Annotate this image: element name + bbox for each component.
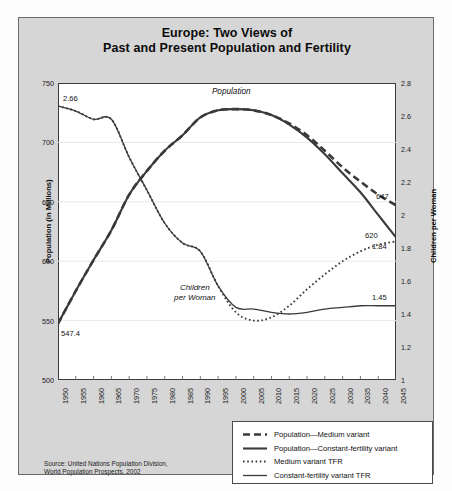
legend-population-constant[interactable]: Population—Constant-fertility variant — [242, 442, 397, 455]
legend-label: Population—Constant-fertility variant — [274, 444, 397, 453]
annotation-children-per-woman: Children per Woman — [174, 283, 215, 302]
y-axis-left-tick: 500 — [28, 376, 54, 385]
y-axis-left-tick: 600 — [28, 257, 54, 266]
chart-page: Europe: Two Views of Past and Present Po… — [0, 0, 452, 491]
y-axis-right-tick: 1.6 — [401, 277, 427, 286]
source-line1: Source: United Nations Population Divisi… — [44, 460, 224, 468]
chart-title-line2: Past and Present Population and Fertilit… — [19, 41, 435, 56]
annotation-tfr-start: 2.66 — [63, 94, 78, 103]
source-line2: World Population Prospects, 2002 — [44, 468, 224, 476]
y-axis-right-tick: 2.4 — [401, 145, 427, 154]
series-line — [58, 106, 396, 321]
y-axis-right-tick: 2.8 — [401, 79, 427, 88]
y-axis-right-tick: 2.2 — [401, 178, 427, 187]
annotation-population-start: 547.4 — [61, 329, 80, 338]
legend-label: Population—Medium variant — [274, 430, 369, 439]
chart-card: Europe: Two Views of Past and Present Po… — [18, 17, 434, 475]
y-axis-right-tick: 1.8 — [401, 244, 427, 253]
legend-swatch-dotted — [242, 456, 268, 467]
y-axis-right-tick: 1.2 — [401, 343, 427, 352]
plot-area: Population Children per Woman 2.66 547.4… — [58, 83, 396, 380]
legend-swatch-solid-thin — [242, 470, 268, 481]
y-axis-left-tick: 700 — [28, 138, 54, 147]
legend-tfr-constant[interactable]: Constant-fertility variant TFR — [242, 469, 371, 482]
series-line — [58, 109, 396, 324]
annotation-tfr-medium-end: 1.84 — [372, 242, 387, 251]
y-axis-right-tick: 1 — [401, 376, 427, 385]
chart-canvas — [58, 83, 396, 380]
annotation-population-constant-end: 620 — [365, 231, 378, 240]
y-axis-left-tick: 750 — [28, 79, 54, 88]
y-axis-left-tick: 550 — [28, 317, 54, 326]
y-axis-right-tick: 2.6 — [401, 112, 427, 121]
y-axis-left-tick: 650 — [28, 198, 54, 207]
annotation-children-line1: Children — [180, 283, 210, 292]
annotation-population: Population — [212, 87, 251, 96]
y-axis-left-label: Population (in Millions) — [44, 179, 53, 263]
y-axis-right-label: Children per Woman — [429, 189, 438, 263]
legend-label: Constant-fertility variant TFR — [274, 471, 371, 480]
series-line — [58, 106, 396, 314]
chart-title: Europe: Two Views of Past and Present Po… — [19, 26, 435, 56]
source-note: Source: United Nations Population Divisi… — [44, 460, 224, 476]
series-line — [58, 109, 396, 324]
legend-swatch-dashed — [242, 429, 268, 440]
annotation-tfr-constant-end: 1.45 — [372, 293, 387, 302]
legend-label: Medium variant TFR — [274, 457, 343, 466]
legend-tfr-medium[interactable]: Medium variant TFR — [242, 455, 343, 468]
legend-swatch-solid-thick — [242, 443, 268, 454]
annotation-children-line2: per Woman — [174, 293, 215, 302]
legend-population-medium[interactable]: Population—Medium variant — [242, 428, 369, 441]
chart-legend: Population—Medium variantPopulation—Cons… — [232, 421, 433, 484]
y-axis-right-tick: 1.4 — [401, 310, 427, 319]
y-axis-right-tick: 2 — [401, 211, 427, 220]
chart-title-line1: Europe: Two Views of — [19, 26, 435, 41]
annotation-population-medium-end: 647 — [376, 192, 389, 201]
